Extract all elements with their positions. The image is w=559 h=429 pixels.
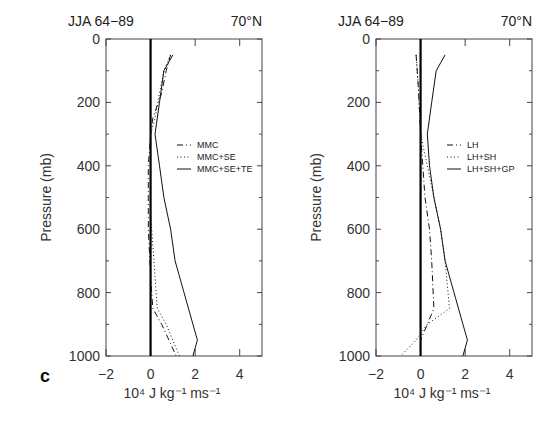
legend-label: MMC	[197, 140, 219, 150]
x-tick-label: 4	[236, 366, 244, 382]
y-tick-label: 800	[77, 285, 101, 301]
legend-label: MMC+SE+TE	[197, 164, 253, 174]
x-tick-label: −2	[368, 366, 384, 382]
chart-panel-1: JJA 64−8970°N02004006008001000−202410⁴ J…	[38, 13, 262, 401]
y-axis-label: Pressure (mb)	[308, 153, 324, 242]
y-tick-label: 800	[347, 285, 371, 301]
x-tick-label: 0	[417, 366, 425, 382]
y-tick-label: 1000	[339, 348, 370, 364]
legend-label: LH	[467, 140, 479, 150]
legend-label: LH+SH	[467, 152, 496, 162]
y-tick-label: 600	[347, 221, 371, 237]
x-tick-label: 0	[147, 366, 155, 382]
series-line-mmc-se	[151, 55, 180, 356]
x-tick-label: 2	[461, 366, 469, 382]
x-axis-label: 10⁴ J kg⁻¹ ms⁻¹	[393, 385, 490, 401]
y-tick-label: 400	[77, 158, 101, 174]
series-line-mmc-se-te	[155, 55, 197, 356]
chart-panel-2: JJA 64−8970°N02004006008001000−202410⁴ J…	[308, 13, 532, 401]
series-line-lh-sh	[401, 55, 450, 356]
y-tick-label: 200	[347, 94, 371, 110]
panel-letter: c	[40, 366, 50, 386]
y-tick-label: 0	[92, 31, 100, 47]
y-axis-label: Pressure (mb)	[38, 153, 54, 242]
x-axis-label: 10⁴ J kg⁻¹ ms⁻¹	[123, 385, 220, 401]
chart-title-season: JJA 64−89	[338, 13, 404, 29]
chart-canvas: JJA 64−8970°N02004006008001000−202410⁴ J…	[0, 0, 559, 429]
chart-title-latitude: 70°N	[501, 13, 532, 29]
y-tick-label: 0	[362, 31, 370, 47]
x-tick-label: 2	[191, 366, 199, 382]
x-tick-label: 4	[506, 366, 514, 382]
plot-frame	[376, 39, 532, 356]
x-tick-label: −2	[98, 366, 114, 382]
chart-title-latitude: 70°N	[231, 13, 262, 29]
chart-title-season: JJA 64−89	[68, 13, 134, 29]
y-tick-label: 1000	[69, 348, 100, 364]
legend-label: MMC+SE	[197, 152, 236, 162]
plot-frame	[106, 39, 262, 356]
y-tick-label: 200	[77, 94, 101, 110]
y-tick-label: 600	[77, 221, 101, 237]
y-tick-label: 400	[347, 158, 371, 174]
series-line-mmc	[148, 55, 176, 356]
legend-label: LH+SH+GP	[467, 164, 515, 174]
